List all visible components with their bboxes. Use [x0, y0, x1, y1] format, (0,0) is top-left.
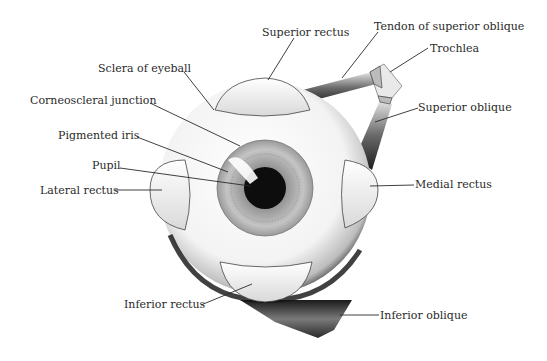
eye-anatomy-diagram: Superior rectus Tendon of superior obliq… — [0, 0, 547, 361]
label-trochlea: Trochlea — [430, 42, 479, 55]
label-superior-rectus: Superior rectus — [262, 26, 350, 39]
label-corneoscleral-junction: Corneoscleral junction — [30, 94, 157, 107]
inferior-oblique-muscle — [240, 300, 352, 338]
label-inferior-oblique: Inferior oblique — [380, 309, 468, 322]
label-pigmented-iris: Pigmented iris — [58, 129, 140, 142]
label-inferior-rectus: Inferior rectus — [124, 298, 206, 311]
label-sclera: Sclera of eyeball — [98, 62, 192, 75]
leader-superior-rectus — [268, 38, 294, 80]
medial-rectus-muscle — [342, 160, 379, 228]
label-medial-rectus: Medial rectus — [415, 178, 492, 191]
label-lateral-rectus: Lateral rectus — [40, 184, 119, 197]
label-superior-oblique: Superior oblique — [418, 101, 512, 114]
lateral-rectus-muscle — [150, 160, 190, 230]
superior-rectus-muscle — [215, 78, 310, 116]
label-tendon-superior-oblique: Tendon of superior oblique — [374, 20, 524, 33]
label-pupil: Pupil — [92, 159, 121, 172]
leader-trochlea — [390, 48, 428, 72]
leader-sclera — [184, 72, 214, 110]
